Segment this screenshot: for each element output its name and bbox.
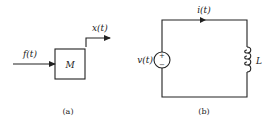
output-label: x(t) <box>92 23 108 33</box>
diagram-canvas: f(t) M x(t) (a) i(t) + − v(t) L (b) <box>0 0 274 122</box>
current-arrow-icon <box>200 17 206 23</box>
caption-b: (b) <box>198 107 209 116</box>
output-arrow <box>86 38 110 47</box>
top-wire <box>162 20 247 52</box>
block-label: M <box>64 60 75 70</box>
input-label: f(t) <box>22 49 37 59</box>
figure-b: i(t) + − v(t) L (b) <box>137 5 262 116</box>
source-label: v(t) <box>137 55 153 65</box>
current-label: i(t) <box>197 5 211 15</box>
caption-a: (a) <box>62 107 73 116</box>
figure-a: f(t) M x(t) (a) <box>13 23 110 116</box>
inductor-coil-icon <box>247 47 251 72</box>
inductor-label: L <box>255 56 262 66</box>
bottom-wire <box>162 68 247 97</box>
source-minus: − <box>159 61 165 69</box>
inductor-loops <box>245 50 247 65</box>
source-plus: + <box>159 52 165 60</box>
